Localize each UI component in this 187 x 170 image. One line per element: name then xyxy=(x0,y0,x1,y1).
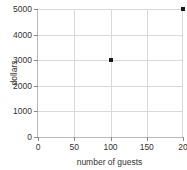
y-tick xyxy=(34,111,38,112)
x-tick-label: 100 xyxy=(103,142,117,152)
x-axis-title: number of guests xyxy=(37,157,182,167)
data-point xyxy=(181,7,185,11)
gridline-vertical xyxy=(147,9,148,137)
y-tick-label: 1000 xyxy=(13,106,32,116)
plot-area: 0 1000 2000 3000 4000 5000 0 50 100 150 … xyxy=(37,9,183,138)
x-tick-label: 20 xyxy=(178,142,187,152)
x-tick xyxy=(111,137,112,141)
gridline-vertical xyxy=(182,9,183,137)
gridline-vertical xyxy=(74,9,75,137)
y-tick xyxy=(34,86,38,87)
y-tick-label: 0 xyxy=(27,132,32,142)
y-axis-title: dollars xyxy=(9,60,19,85)
x-tick-label: 50 xyxy=(70,142,79,152)
x-tick xyxy=(38,137,39,141)
gridline-vertical xyxy=(111,9,112,137)
x-tick xyxy=(74,137,75,141)
x-tick xyxy=(183,137,184,141)
x-tick-label: 0 xyxy=(36,142,41,152)
y-tick-label: 4000 xyxy=(13,30,32,40)
x-tick-label: 150 xyxy=(140,142,154,152)
data-point xyxy=(109,58,113,62)
y-tick xyxy=(34,60,38,61)
y-tick-label: 5000 xyxy=(13,4,32,14)
scatter-chart-figure: 0 1000 2000 3000 4000 5000 0 50 100 150 … xyxy=(0,0,187,170)
y-tick xyxy=(34,35,38,36)
y-tick xyxy=(34,9,38,10)
x-tick xyxy=(147,137,148,141)
